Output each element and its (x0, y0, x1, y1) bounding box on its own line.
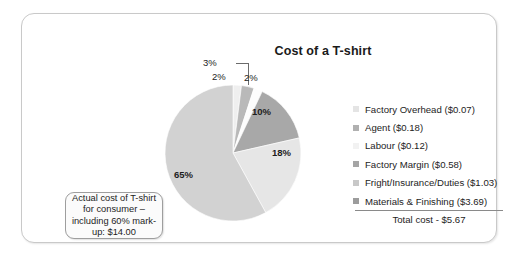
pie-label-factory-overhead: 2% (212, 71, 226, 82)
legend-swatch-icon (353, 143, 359, 149)
chart-screenshot: Cost of a T-shirt 3% 2% 2% 10% 18% (0, 0, 517, 260)
legend-swatch-icon (353, 106, 359, 112)
legend-swatch-icon (353, 198, 359, 204)
pie-label-materials-finishing: 65% (174, 169, 193, 180)
legend-item-label: Agent ($0.18) (365, 122, 423, 133)
pie-label-fright-insurance-duties: 18% (272, 147, 291, 158)
legend-item-label: Factory Overhead ($0.07) (365, 104, 475, 115)
legend: Factory Overhead ($0.07) Agent ($0.18) L… (353, 100, 508, 210)
legend-item-factory-overhead[interactable]: Factory Overhead ($0.07) (353, 100, 508, 118)
legend-item-factory-margin[interactable]: Factory Margin ($0.58) (353, 155, 508, 173)
legend-item-materials-finishing[interactable]: Materials & Finishing ($3.69) (353, 192, 508, 210)
callout-box: Actual cost of T-shirt for consumer – in… (65, 192, 163, 239)
pie-label-agent: 3% (203, 57, 217, 68)
legend-item-fright-insurance-duties[interactable]: Fright/Insurance/Duties ($1.03) (353, 174, 508, 192)
pie-label-labour: 2% (244, 72, 258, 83)
callout-text: Actual cost of T-shirt for consumer – in… (66, 193, 162, 238)
legend-item-label: Fright/Insurance/Duties ($1.03) (365, 177, 497, 188)
legend-swatch-icon (353, 161, 359, 167)
legend-divider (355, 210, 503, 211)
legend-swatch-icon (353, 125, 359, 131)
total-cost-label: Total cost - $5.67 (355, 214, 503, 225)
chart-card: Cost of a T-shirt 3% 2% 2% 10% 18% (21, 13, 497, 243)
legend-item-agent[interactable]: Agent ($0.18) (353, 118, 508, 136)
pie-label-factory-margin: 10% (252, 106, 271, 117)
legend-item-label: Materials & Finishing ($3.69) (365, 196, 487, 207)
legend-swatch-icon (353, 180, 359, 186)
page-title: Cost of a T-shirt (238, 44, 408, 58)
legend-item-label: Factory Margin ($0.58) (365, 159, 462, 170)
legend-item-label: Labour ($0.12) (365, 140, 428, 151)
legend-item-labour[interactable]: Labour ($0.12) (353, 137, 508, 155)
